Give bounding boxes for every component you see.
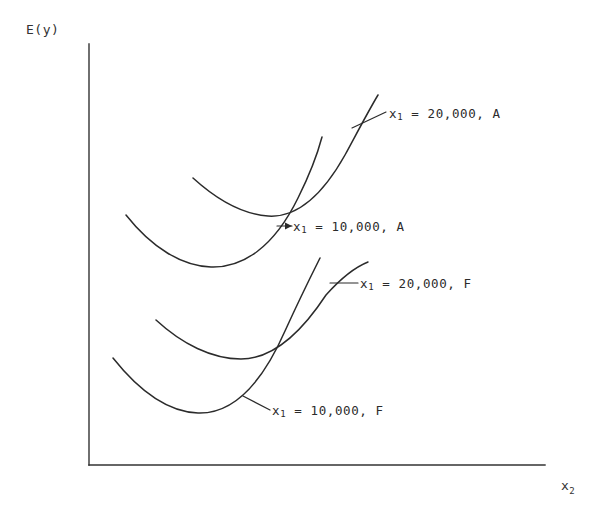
annotation-subscript: 1	[280, 409, 286, 419]
annotation-value: = 20,000, A	[403, 106, 501, 121]
curve-x1-20000-F	[156, 262, 368, 359]
y-axis-label: E(y)	[26, 22, 59, 37]
x-axis-label-subscript: 2	[569, 486, 575, 496]
annotation-subscript: 1	[397, 112, 403, 122]
annotation-var: x	[272, 403, 280, 418]
x-axis-label: x2	[561, 478, 575, 496]
curve-annotation-x1-20000-A: x1 = 20,000, A	[389, 106, 501, 121]
curve-annotation-x1-20000-F: x1 = 20,000, F	[360, 276, 472, 291]
curve-x1-20000-A	[193, 95, 378, 216]
annotation-value: = 10,000, A	[307, 219, 405, 234]
leader-line-f10	[243, 396, 270, 410]
annotation-var: x	[360, 276, 368, 291]
curve-annotation-x1-10000-A: x1 = 10,000, A	[293, 219, 405, 234]
cost-curve-figure	[0, 0, 614, 514]
annotation-subscript: 1	[368, 282, 374, 292]
curve-annotation-x1-10000-F: x1 = 10,000, F	[272, 403, 384, 418]
annotation-var: x	[389, 106, 397, 121]
leader-line-a20	[352, 112, 386, 128]
curve-x1-10000-F	[113, 258, 320, 413]
leader-arrow-a10	[285, 223, 292, 230]
annotation-value: = 20,000, F	[374, 276, 472, 291]
annotation-var: x	[293, 219, 301, 234]
annotation-subscript: 1	[301, 225, 307, 235]
annotation-value: = 10,000, F	[286, 403, 384, 418]
